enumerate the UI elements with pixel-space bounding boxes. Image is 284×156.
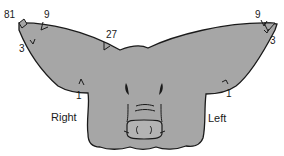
notch-label-27: 27 <box>106 29 118 40</box>
side-label-right: Right <box>51 111 77 123</box>
notch-label-3-right: 3 <box>19 43 25 54</box>
notch-label-1-left: 1 <box>226 88 232 99</box>
notch-label-81: 81 <box>4 9 16 20</box>
side-label-left: Left <box>208 112 226 124</box>
notch-label-3-left: 3 <box>270 35 276 46</box>
notch-label-9-right: 9 <box>44 9 50 20</box>
pig-ear-notch-diagram: 81 9 3 27 1 9 3 1 Right Left <box>0 0 284 156</box>
notch-label-1-right: 1 <box>76 90 82 101</box>
snout <box>127 120 162 139</box>
notch-label-9-left: 9 <box>255 9 261 20</box>
